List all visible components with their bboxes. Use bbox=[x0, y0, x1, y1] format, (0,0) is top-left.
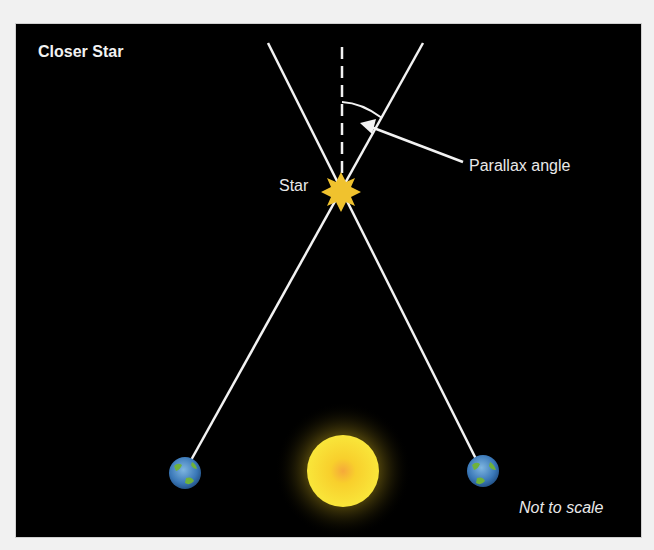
scale-note: Not to scale bbox=[519, 499, 603, 517]
earth-left-icon bbox=[169, 457, 201, 489]
sun-icon bbox=[307, 435, 379, 507]
diagram-title: Closer Star bbox=[38, 43, 123, 61]
star-icon bbox=[321, 172, 361, 212]
parallax-pointer-line bbox=[371, 127, 463, 162]
sight-line-right bbox=[190, 43, 423, 462]
parallax-diagram bbox=[0, 0, 654, 550]
parallax-angle-arc bbox=[342, 102, 382, 118]
earth-right-icon bbox=[467, 455, 499, 487]
sight-line-left bbox=[268, 43, 477, 461]
star-label: Star bbox=[279, 177, 308, 195]
parallax-angle-label: Parallax angle bbox=[469, 157, 570, 175]
